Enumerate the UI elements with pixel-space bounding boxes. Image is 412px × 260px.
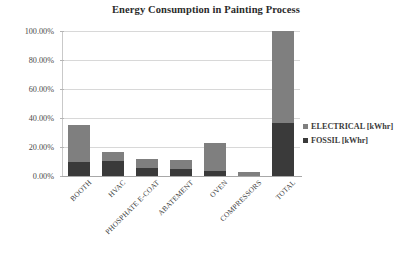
bar-series-layer — [62, 31, 300, 176]
y-axis-labels: 0.00%20.00%40.00%60.00%80.00%100.00% — [0, 31, 58, 176]
bar-group-phosphate-e-coat[interactable] — [136, 159, 157, 176]
bar-segment-fossil[interactable] — [272, 123, 293, 176]
chart-title: Energy Consumption in Painting Process — [0, 4, 412, 15]
bar-segment-electrical[interactable] — [68, 125, 89, 162]
legend-label: ELECTRICAL [kWhr] — [311, 122, 393, 131]
bar-group-hvac[interactable] — [102, 152, 123, 176]
bar-segment-electrical[interactable] — [238, 172, 259, 176]
x-axis-line — [62, 176, 302, 177]
bar-group-compressors[interactable] — [238, 172, 259, 176]
legend-swatch-icon — [303, 138, 308, 143]
y-axis-tick-label: 100.00% — [25, 27, 54, 36]
bar-segment-fossil[interactable] — [102, 161, 123, 176]
bar-group-abatement[interactable] — [170, 160, 191, 176]
legend-label: FOSSIL [kWhr] — [311, 136, 368, 145]
legend-item[interactable]: FOSSIL [kWhr] — [303, 136, 411, 145]
bar-group-booth[interactable] — [68, 125, 89, 176]
bar-segment-electrical[interactable] — [272, 31, 293, 123]
legend-swatch-icon — [303, 124, 308, 129]
bar-segment-fossil[interactable] — [204, 171, 225, 176]
bar-group-total[interactable] — [272, 31, 293, 176]
bar-segment-fossil[interactable] — [136, 168, 157, 176]
y-axis-tick-label: 20.00% — [29, 143, 54, 152]
bar-group-oven[interactable] — [204, 143, 225, 176]
bar-segment-fossil[interactable] — [68, 162, 89, 176]
chart-container: Energy Consumption in Painting Process 0… — [0, 0, 412, 260]
x-axis-labels: BOOTHHVACPHOSPHATE E-COATABATEMENTOVENCO… — [62, 178, 302, 258]
legend-item[interactable]: ELECTRICAL [kWhr] — [303, 122, 411, 131]
bar-segment-electrical[interactable] — [136, 159, 157, 168]
bar-segment-electrical[interactable] — [204, 143, 225, 171]
y-axis-tick-label: 40.00% — [29, 114, 54, 123]
y-axis-tick-label: 0.00% — [33, 172, 54, 181]
y-axis-tick-label: 60.00% — [29, 85, 54, 94]
bar-segment-fossil[interactable] — [170, 169, 191, 176]
bar-segment-electrical[interactable] — [102, 152, 123, 161]
y-axis-tick-label: 80.00% — [29, 56, 54, 65]
bar-segment-electrical[interactable] — [170, 160, 191, 169]
chart-legend: ELECTRICAL [kWhr]FOSSIL [kWhr] — [303, 122, 411, 150]
